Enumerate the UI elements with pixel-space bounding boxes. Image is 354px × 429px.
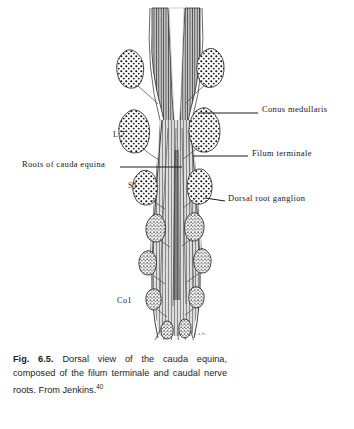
label-conus-medullaris: Conus medullaris (262, 104, 327, 114)
figure-caption: Fig. 6.5.Dorsal view of the cauda equina… (13, 352, 227, 398)
artist-signature-label: a.a.b. (194, 331, 207, 336)
caption-text-3: the filum terminale and caudal (71, 368, 200, 378)
label-level-l7: L 7 (113, 130, 125, 139)
caption-reference-number: 40 (96, 383, 103, 390)
label-roots-of-cauda-equina: Roots of cauda equina (22, 159, 105, 169)
label-level-s1: S1 (128, 181, 138, 190)
anatomical-figure: a.a.b. a.a.b. Conus medullaris Filum ter… (0, 0, 354, 340)
caption-text-1: Dorsal view of the (62, 354, 154, 364)
label-dorsal-root-ganglion: Dorsal root ganglion (228, 193, 305, 203)
label-level-co1: Co1 (117, 296, 132, 305)
label-filum-terminale: Filum terminale (252, 148, 312, 158)
figure-number: Fig. 6.5. (13, 354, 53, 364)
cauda-equina-drawing: a.a.b. (0, 0, 354, 340)
